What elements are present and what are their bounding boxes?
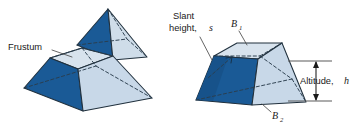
b1-label-symbol: B	[231, 18, 237, 29]
left-figure-group: Frustum	[8, 9, 152, 111]
b2-label-symbol: B	[272, 110, 278, 121]
altitude-arrowhead-bottom	[313, 94, 319, 101]
frustum-diagram-svg: Frustum Slant height, s	[0, 0, 359, 126]
frustum-figure: Frustum Slant height, s	[0, 0, 359, 126]
slant-height-label-line2: height,	[169, 23, 197, 33]
slant-height-leader-line	[200, 37, 212, 60]
b2-label-subscript: 2	[280, 116, 284, 123]
b1-label-subscript: 1	[239, 24, 242, 31]
right-figure-group: Slant height, s B 1 B 2 Altitude, h	[169, 11, 349, 123]
altitude-arrowhead-top	[313, 61, 319, 68]
altitude-symbol: h	[344, 75, 349, 86]
slant-height-label-line1: Slant	[173, 11, 195, 21]
altitude-label: Altitude,	[300, 76, 334, 86]
b2-label-leader-line	[262, 104, 271, 112]
frustum-label: Frustum	[8, 42, 42, 52]
slant-height-symbol: s	[209, 22, 213, 33]
